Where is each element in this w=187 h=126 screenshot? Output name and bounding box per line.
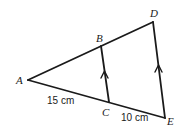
point-label-B: B — [96, 32, 103, 44]
point-label-C: C — [102, 106, 110, 118]
length-label-AC: 15 cm — [47, 95, 74, 106]
triangle-diagram: A B C D E 15 cm 10 cm — [0, 0, 187, 126]
segment-AD — [28, 22, 153, 80]
segment-BC — [101, 46, 109, 102]
point-label-A: A — [15, 74, 23, 86]
point-label-E: E — [166, 115, 174, 126]
point-label-D: D — [149, 7, 158, 19]
segment-DE — [153, 22, 165, 118]
length-label-CE: 10 cm — [121, 112, 148, 123]
